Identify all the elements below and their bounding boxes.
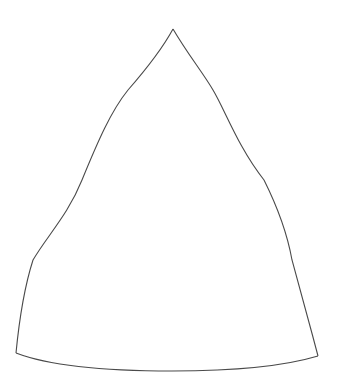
drawing-canvas	[0, 0, 339, 388]
canvas-background	[0, 0, 339, 388]
gore-outline-figure	[0, 0, 339, 388]
